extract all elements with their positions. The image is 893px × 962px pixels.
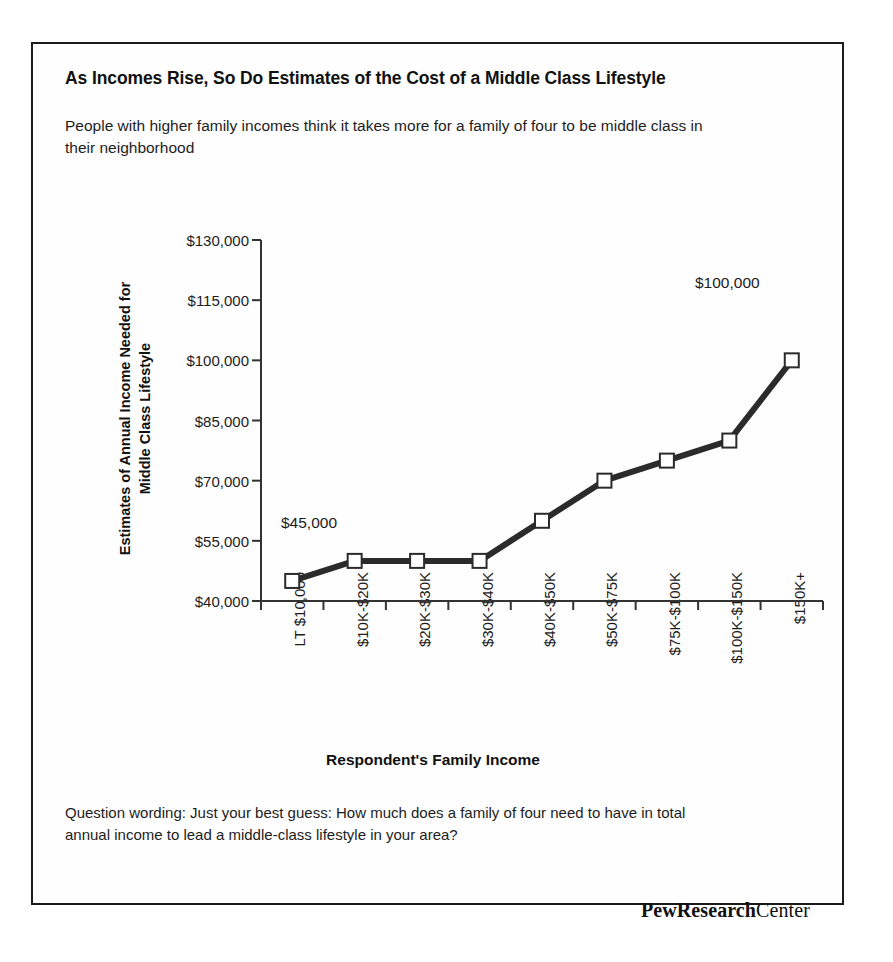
chart-plot-region: Estimates of Annual Income Needed for Mi… [33, 194, 842, 794]
chart-subtitle: People with higher family incomes think … [65, 115, 705, 160]
data-series-line [292, 360, 792, 581]
data-point-marker [535, 514, 549, 528]
x-axis-ticks [261, 601, 823, 610]
data-point-marker [473, 554, 487, 568]
data-point-markers [285, 353, 799, 588]
data-point-marker [660, 454, 674, 468]
data-label-first-point: $45,000 [281, 514, 337, 532]
data-point-marker [785, 353, 799, 367]
data-point-marker [410, 554, 424, 568]
brand-name-light: Center [756, 899, 810, 921]
footnote-text: Question wording: Just your best guess: … [65, 802, 690, 846]
data-label-last-point: $100,000 [695, 274, 760, 292]
axis-lines [261, 240, 823, 601]
header-block: As Incomes Rise, So Do Estimates of the … [65, 66, 705, 160]
y-axis-ticks [252, 240, 261, 601]
data-point-marker [285, 574, 299, 588]
brand-name-strong: PewResearch [641, 899, 756, 921]
data-point-marker [597, 474, 611, 488]
data-point-marker [348, 554, 362, 568]
figure-frame: As Incomes Rise, So Do Estimates of the … [31, 42, 844, 905]
page-title: As Incomes Rise, So Do Estimates of the … [65, 66, 705, 91]
data-point-marker [722, 434, 736, 448]
x-axis-title: Respondent's Family Income [143, 751, 723, 769]
pew-research-center-logo: PewResearchCenter [641, 899, 810, 922]
